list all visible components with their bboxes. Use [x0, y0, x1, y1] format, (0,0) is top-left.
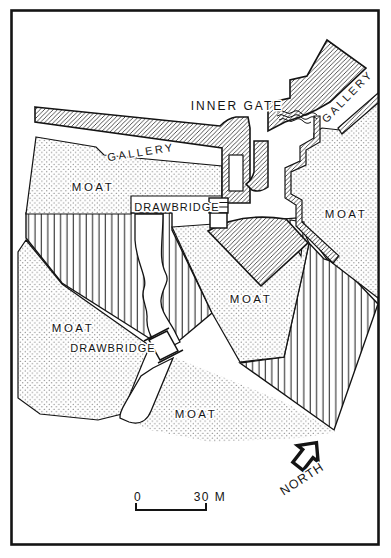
castle-plan-map: INNER GATE GALLERY GALLERY MOAT DRAWBRID… — [0, 0, 391, 558]
moat-left-label: MOAT — [52, 322, 94, 334]
castle-plan-figure: INNER GATE GALLERY GALLERY MOAT DRAWBRID… — [0, 0, 391, 558]
moat-bottom-label: MOAT — [175, 408, 217, 420]
inner-gate-label: INNER GATE — [191, 99, 283, 113]
moat-center-label: MOAT — [230, 293, 272, 305]
drawbridge-lower-label: DRAWBRIDGE — [70, 342, 155, 354]
moat-right-label: MOAT — [325, 208, 367, 220]
moat-upper-left-label: MOAT — [72, 181, 114, 193]
scale-max-label: 30 M — [194, 490, 227, 504]
gatehouse-room — [229, 155, 243, 191]
scale-zero-label: 0 — [134, 490, 142, 504]
drawbridge-upper-label: DRAWBRIDGE — [134, 201, 219, 213]
